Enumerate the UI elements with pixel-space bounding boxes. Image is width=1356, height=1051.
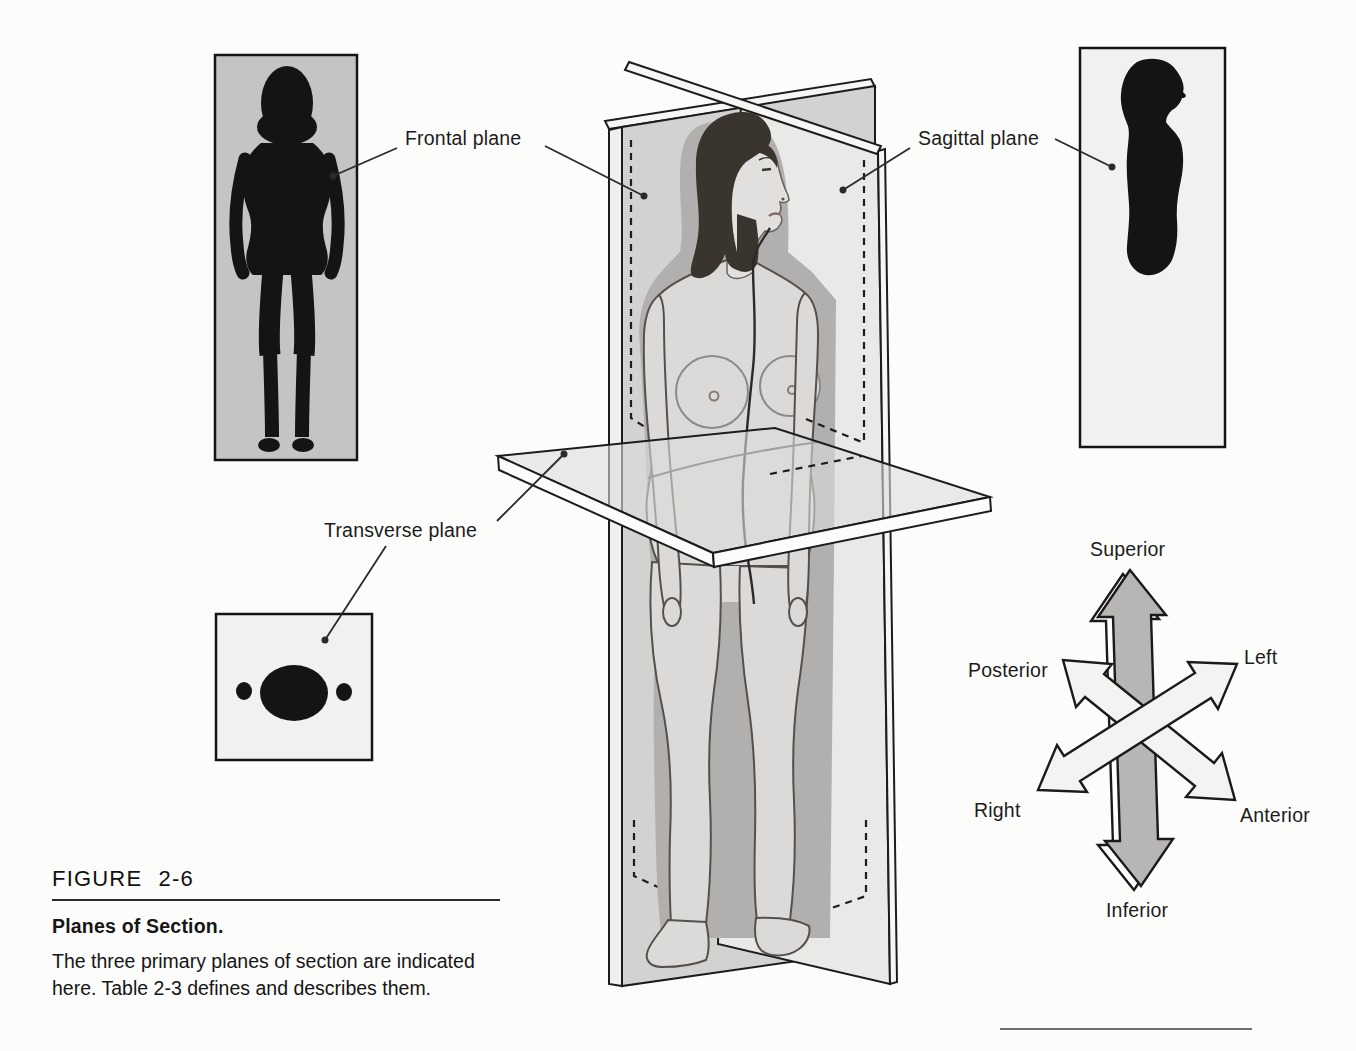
left-label: Left <box>1244 646 1277 669</box>
anterior-label: Anterior <box>1240 804 1310 827</box>
transverse-section-box <box>216 614 372 760</box>
frontal-plane-label: Frontal plane <box>405 127 521 150</box>
inferior-label: Inferior <box>1106 899 1168 922</box>
frontal-section-box <box>215 55 357 460</box>
right-label: Right <box>974 799 1021 822</box>
figure-number: FIGURE 2-6 <box>52 866 526 892</box>
sagittal-silhouette <box>1121 59 1186 276</box>
figure-caption: FIGURE 2-6 Planes of Section. The three … <box>52 866 526 1002</box>
page-bottom-rule <box>1000 1028 1252 1030</box>
figure-page: Frontal plane Sagittal plane Transverse … <box>0 0 1356 1051</box>
transverse-plane-label: Transverse plane <box>324 519 477 542</box>
caption-body: The three primary planes of section are … <box>52 948 524 1002</box>
sagittal-section-box <box>1080 48 1225 447</box>
caption-rule <box>52 899 500 901</box>
posterior-label: Posterior <box>968 659 1048 682</box>
superior-label: Superior <box>1090 538 1165 561</box>
transverse-plane-3d <box>498 419 991 567</box>
caption-title: Planes of Section. <box>52 915 526 938</box>
sagittal-plane-label: Sagittal plane <box>918 127 1039 150</box>
direction-compass <box>1038 570 1237 890</box>
